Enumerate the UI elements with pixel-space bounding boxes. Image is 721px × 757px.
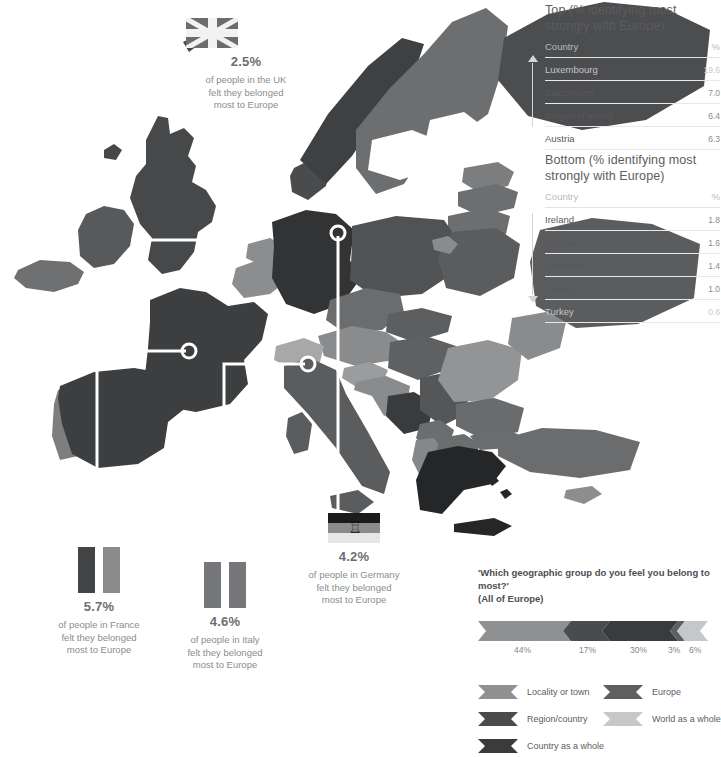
german-eagle-emblem: ♖ xyxy=(348,518,360,537)
legend-label: Locality or town xyxy=(527,687,590,697)
bar-label-world: 6% xyxy=(689,645,701,655)
callout-germany-description: of people in Germany felt they belonged … xyxy=(290,569,418,607)
country-united-kingdom xyxy=(130,116,216,274)
cell-country: Austria xyxy=(545,127,686,150)
legend-swatch-country xyxy=(478,739,518,753)
legend-label: World as a whole xyxy=(652,714,721,724)
callout-france-percent: 5.7% xyxy=(40,599,158,614)
legend-label: Region/country xyxy=(527,714,588,724)
country-crete xyxy=(454,518,512,536)
stacked-bar-value-labels: 44% 17% 30% 3% 6% xyxy=(478,645,708,659)
table-header-row: Country % xyxy=(545,188,720,208)
bar-segment-country xyxy=(602,621,678,641)
cell-percent: 1.4 xyxy=(678,254,720,277)
map-speck-aegean-2 xyxy=(500,489,512,499)
callout-uk-percent: 2.5% xyxy=(186,54,306,69)
cell-percent: 6.4 xyxy=(686,104,720,127)
table-row: Luxembourg 19.6 xyxy=(545,58,720,81)
callout-france-description: of people in France felt they belonged m… xyxy=(40,619,158,657)
country-sicily xyxy=(330,490,374,514)
country-cyprus xyxy=(564,486,602,504)
country-ireland xyxy=(78,206,134,268)
country-france xyxy=(144,288,268,412)
callout-italy-percent: 4.6% xyxy=(166,614,284,629)
country-scotland-isles xyxy=(104,144,122,160)
cell-country: Romania xyxy=(545,254,678,277)
callout-germany: ♖ 4.2% of people in Germany felt they be… xyxy=(290,513,418,607)
legend-item-europe: Europe xyxy=(603,685,681,699)
bottom-rank-title: Bottom (% identifying most strongly with… xyxy=(545,152,720,184)
legend-item-locality: Locality or town xyxy=(478,685,590,699)
legend-swatch-locality xyxy=(478,685,518,699)
bar-segment-locality xyxy=(478,621,571,641)
table-header-row: Country % xyxy=(545,38,720,58)
survey-question-block: 'Which geographic group do you feel you … xyxy=(478,566,714,757)
callout-germany-percent: 4.2% xyxy=(290,549,418,564)
legend-item-country: Country as a whole xyxy=(478,739,604,753)
cell-percent: 1.6 xyxy=(678,231,720,254)
callout-italy-description: of people in Italy felt they belonged mo… xyxy=(166,634,284,672)
flag-italy-icon xyxy=(166,562,284,608)
table-row: Romania 1.4 xyxy=(545,254,720,277)
cell-country: Ireland xyxy=(545,208,678,231)
legend-swatch-region xyxy=(478,712,518,726)
table-row: Belgium/Finland 6.4 xyxy=(545,104,720,127)
table-row: Albania 1.6 xyxy=(545,231,720,254)
table-row: Ireland 1.8 xyxy=(545,208,720,231)
arrow-up-icon xyxy=(527,55,539,135)
cell-percent: 6.3 xyxy=(686,127,720,150)
survey-question-line1: 'Which geographic group do you feel you … xyxy=(478,566,714,592)
legend-label: Country as a whole xyxy=(527,741,604,751)
top-col-percent: % xyxy=(686,38,720,58)
flag-uk-icon xyxy=(186,18,306,48)
cell-country: Belgium/Finland xyxy=(545,104,686,127)
arrow-down-icon xyxy=(527,205,539,303)
callout-italy: 4.6% of people in Italy felt they belong… xyxy=(166,562,284,672)
cell-percent: 1.0 xyxy=(678,277,720,300)
top-rank-panel: Top (% identifying most strongly with Eu… xyxy=(545,2,720,150)
cell-percent: 7.0 xyxy=(686,81,720,104)
callout-uk-description: of people in the UK felt they belonged m… xyxy=(186,74,306,112)
stacked-bar-chart xyxy=(478,621,708,641)
survey-question-line2: (All of Europe) xyxy=(478,592,714,605)
legend-item-world: World as a whole xyxy=(603,712,721,726)
bar-label-region: 17% xyxy=(579,645,596,655)
legend-swatch-world xyxy=(603,712,643,726)
country-iceland xyxy=(14,260,84,292)
bar-label-country: 30% xyxy=(630,645,647,655)
top-rank-title: Top (% identifying most strongly with Eu… xyxy=(545,2,720,34)
bar-label-locality: 44% xyxy=(514,645,531,655)
bottom-col-percent: % xyxy=(678,188,720,208)
bottom-rank-panel: Bottom (% identifying most strongly with… xyxy=(545,152,720,323)
country-slovakia xyxy=(386,308,452,342)
legend-label: Europe xyxy=(652,687,681,697)
legend-swatch-europe xyxy=(603,685,643,699)
cell-country: Luxembourg xyxy=(545,58,686,81)
cell-percent: 0.6 xyxy=(678,300,720,323)
callout-uk: 2.5% of people in the UK felt they belon… xyxy=(186,18,306,112)
top-col-country: Country xyxy=(545,38,686,58)
legend-item-region: Region/country xyxy=(478,712,588,726)
callout-france: 5.7% of people in France felt they belon… xyxy=(40,547,158,657)
cell-country: Turkey xyxy=(545,300,678,323)
flag-germany-icon: ♖ xyxy=(328,513,380,543)
table-row: Switzerland 7.0 xyxy=(545,81,720,104)
country-romania xyxy=(438,340,522,402)
table-row: Turkey 0.6 xyxy=(545,300,720,323)
top-rank-table: Country % Luxembourg 19.6 Switzerland 7.… xyxy=(545,38,720,150)
bar-label-europe: 3% xyxy=(668,645,680,655)
flag-france-icon xyxy=(40,547,158,593)
chart-legend: Locality or town Region/country Country … xyxy=(478,685,714,757)
country-turkey xyxy=(498,428,640,478)
cell-country: Poland xyxy=(545,277,678,300)
bottom-rank-table: Country % Ireland 1.8 Albania 1.6 Romani… xyxy=(545,188,720,323)
country-sardinia xyxy=(286,412,312,454)
table-row: Poland 1.0 xyxy=(545,277,720,300)
cell-country: Albania xyxy=(545,231,678,254)
bottom-col-country: Country xyxy=(545,188,678,208)
cell-country: Switzerland xyxy=(545,81,686,104)
cell-percent: 19.6 xyxy=(686,58,720,81)
cell-percent: 1.8 xyxy=(678,208,720,231)
table-row: Austria 6.3 xyxy=(545,127,720,150)
